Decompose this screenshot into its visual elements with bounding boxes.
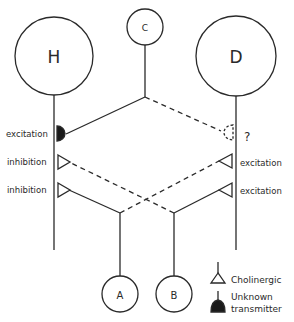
legend-unknown-icon	[211, 300, 225, 312]
node-h-label: H	[48, 47, 61, 67]
node-a-label: A	[117, 290, 124, 301]
synapse-triangle-h-bot	[58, 183, 70, 197]
legend-cholinergic-icon	[211, 273, 225, 283]
c-to-h-connection	[66, 97, 145, 134]
synapse-dashed-d-top	[224, 125, 233, 140]
synapse-triangle-h-mid	[58, 155, 70, 169]
legend-unknown-label-2: transmitter	[231, 304, 282, 314]
b-to-h-connection	[69, 162, 174, 213]
b-to-d-connection	[174, 190, 219, 213]
c-to-d-connection	[145, 97, 221, 131]
synapse-triangle-d-bot	[219, 183, 232, 197]
legend-cholinergic-label: Cholinergic	[231, 275, 281, 285]
a-to-d-connection	[120, 161, 219, 213]
node-d-label: D	[229, 47, 242, 67]
synapse-filled-h-top	[57, 126, 65, 141]
label-d-unknown: ?	[244, 130, 250, 144]
label-h-excitation: excitation	[6, 129, 48, 139]
node-b-label: B	[171, 290, 178, 301]
node-c-label: C	[142, 23, 148, 33]
label-h-inhibition-1: inhibition	[7, 157, 47, 167]
label-d-excitation-2: excitation	[240, 186, 282, 196]
synapse-triangle-d-mid	[219, 154, 232, 168]
legend-unknown-label-1: Unknown	[231, 292, 273, 302]
neural-circuit-diagram: H D C A B excitation inhibition inhibiti…	[0, 0, 294, 322]
label-d-excitation-1: excitation	[240, 158, 282, 168]
a-to-h-connection	[69, 190, 120, 213]
label-h-inhibition-2: inhibition	[7, 185, 47, 195]
